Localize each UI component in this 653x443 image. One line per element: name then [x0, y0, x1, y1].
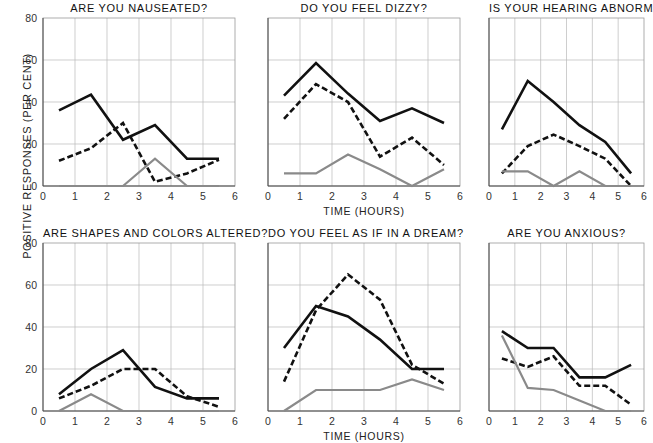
x-tick-label: 5	[200, 190, 206, 202]
y-tick-label: 80	[25, 12, 37, 24]
x-axis-label-dream: TIME (HOURS)	[268, 430, 460, 442]
x-tick-label: 0	[40, 415, 46, 427]
y-tick-label: 20	[25, 363, 37, 375]
x-tick-label: 0	[486, 415, 492, 427]
x-tick-label: 4	[168, 190, 174, 202]
x-tick-label: 6	[641, 415, 647, 427]
x-tick-label: 3	[361, 415, 367, 427]
x-tick-label: 3	[564, 415, 570, 427]
plot-dream: 0123456	[228, 227, 468, 441]
x-tick-label: 4	[393, 415, 399, 427]
x-tick-label: 3	[136, 415, 142, 427]
y-tick-label: 60	[25, 279, 37, 291]
x-tick-label: 3	[136, 190, 142, 202]
x-tick-label: 1	[297, 190, 303, 202]
x-tick-label: 2	[329, 415, 335, 427]
y-tick-label: 40	[25, 321, 37, 333]
x-tick-label: 4	[589, 415, 595, 427]
x-tick-label: 1	[72, 190, 78, 202]
x-tick-label: 4	[589, 190, 595, 202]
x-tick-label: 5	[615, 190, 621, 202]
x-tick-label: 1	[512, 415, 518, 427]
x-tick-label: 1	[72, 415, 78, 427]
x-axis-label-dizzy: TIME (HOURS)	[268, 205, 460, 217]
x-tick-label: 4	[168, 415, 174, 427]
x-tick-label: 6	[641, 190, 647, 202]
figure-root: POSITIVE RESPONSES (PER CENT) ARE YOU NA…	[0, 0, 653, 443]
x-tick-label: 0	[486, 190, 492, 202]
plot-shapes_colors: 0123456020406080	[3, 227, 243, 441]
x-tick-label: 0	[265, 190, 271, 202]
x-tick-label: 5	[425, 415, 431, 427]
x-tick-label: 5	[425, 190, 431, 202]
plot-anxious: 0123456	[449, 227, 652, 441]
x-tick-label: 3	[564, 190, 570, 202]
x-tick-label: 1	[297, 415, 303, 427]
y-tick-label: 40	[25, 96, 37, 108]
x-tick-label: 2	[104, 190, 110, 202]
x-tick-label: 0	[265, 415, 271, 427]
y-tick-label: 20	[25, 138, 37, 150]
plot-nauseated: 0123456020406080	[3, 2, 243, 216]
x-tick-label: 5	[615, 415, 621, 427]
x-tick-label: 2	[329, 190, 335, 202]
x-tick-label: 0	[40, 190, 46, 202]
y-tick-label: 0	[31, 405, 37, 417]
x-tick-label: 3	[361, 190, 367, 202]
x-tick-label: 5	[200, 415, 206, 427]
x-tick-label: 2	[538, 190, 544, 202]
x-tick-label: 1	[512, 190, 518, 202]
x-tick-label: 4	[393, 190, 399, 202]
plot-hearing: 0123456	[449, 2, 652, 216]
x-tick-label: 2	[104, 415, 110, 427]
y-tick-label: 60	[25, 54, 37, 66]
plot-dizzy: 0123456	[228, 2, 468, 216]
x-tick-label: 2	[538, 415, 544, 427]
y-tick-label: 0	[31, 180, 37, 192]
y-tick-label: 80	[25, 237, 37, 249]
